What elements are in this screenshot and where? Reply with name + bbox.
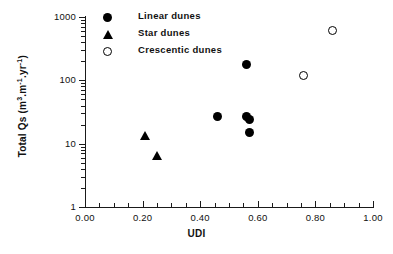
y-axis-label: Total Qs (m3.m-1.yr-1): [16, 6, 28, 206]
data-point-star-dunes: [140, 131, 150, 140]
y-axis-label-prefix: Total Qs (m: [17, 101, 28, 157]
data-point-linear-dunes: [213, 112, 222, 121]
x-axis-tick-major: [373, 201, 374, 207]
x-axis-line: [85, 207, 374, 208]
y-tick-label: 10: [30, 138, 76, 149]
x-tick-label: 0.60: [238, 212, 278, 223]
x-tick-label: 0.80: [295, 212, 335, 223]
x-tick-label: 0.00: [65, 212, 105, 223]
x-axis-label: UDI: [0, 228, 393, 239]
y-axis-tick-major: [79, 207, 85, 208]
y-axis-label-exp1: 3: [16, 97, 23, 101]
x-tick-label: 1.00: [353, 212, 393, 223]
y-axis-label-exp3: -1: [16, 59, 23, 66]
y-tick-label: 1000: [30, 11, 76, 22]
y-tick-label: 100: [30, 74, 76, 85]
data-point-linear-dunes: [245, 128, 254, 137]
y-axis-label-exp2: -1: [16, 78, 23, 85]
data-point-star-dunes: [152, 151, 162, 160]
plot-area: [85, 17, 373, 207]
y-axis-label-mid2: .yr: [17, 65, 28, 78]
x-tick-label: 0.40: [180, 212, 220, 223]
scatter-chart-figure: 0.000.200.400.600.801.001000100101 UDI T…: [0, 0, 393, 254]
y-axis-label-suffix: ): [17, 55, 28, 59]
x-tick-label: 0.20: [123, 212, 163, 223]
y-tick-label: 1: [30, 201, 76, 212]
data-point-linear-dunes: [242, 60, 251, 69]
y-axis-label-mid1: .m: [17, 85, 28, 97]
data-point-crescentic-dunes: [328, 26, 337, 35]
data-point-linear-dunes: [245, 115, 254, 124]
